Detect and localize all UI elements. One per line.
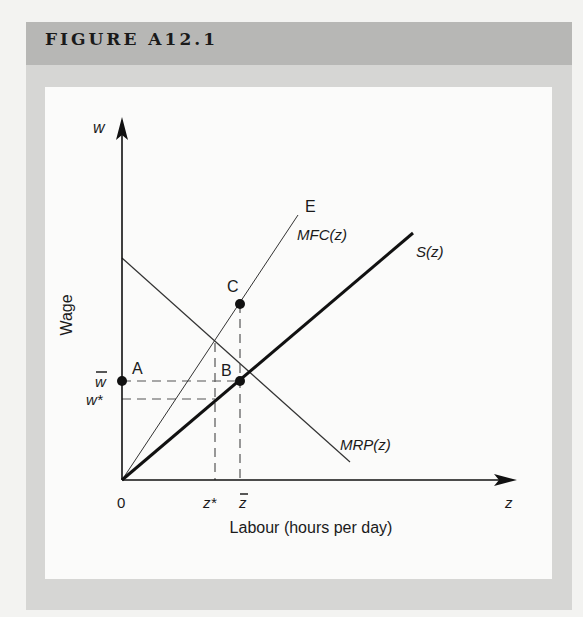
w-star-label: w* — [86, 391, 104, 408]
supply-label: S(z) — [416, 243, 444, 260]
point-e-label: E — [305, 198, 316, 215]
point-c-label: C — [227, 278, 239, 295]
w-bar-label: w — [95, 373, 107, 390]
x-axis-label: Labour (hours per day) — [230, 519, 393, 536]
z-star-label: z* — [202, 494, 218, 511]
chart: w Wage w w* A B C E MFC(z) MRP(z) S(z) 0… — [0, 0, 583, 617]
origin-label: 0 — [117, 494, 125, 511]
point-c — [235, 299, 245, 309]
y-axis-label: Wage — [58, 294, 75, 335]
x-axis-symbol: z — [504, 494, 513, 511]
z-bar-label: z — [238, 494, 247, 511]
y-axis-symbol: w — [93, 119, 106, 136]
mfc-label: MFC(z) — [297, 226, 347, 243]
mrp-label: MRP(z) — [340, 436, 391, 453]
point-b-label: B — [221, 362, 232, 379]
point-a-label: A — [132, 360, 143, 377]
mfc-curve — [122, 215, 298, 480]
point-a — [117, 376, 127, 386]
point-b — [235, 376, 245, 386]
